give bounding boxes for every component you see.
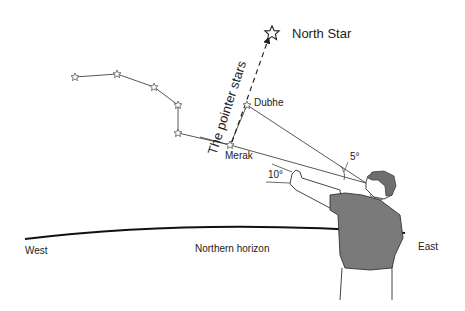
star-icon bbox=[174, 129, 182, 137]
star-icon bbox=[71, 73, 79, 81]
merak-label: Merak bbox=[225, 151, 253, 161]
east-label: East bbox=[418, 242, 438, 252]
stars bbox=[71, 26, 279, 149]
star-icon bbox=[174, 101, 182, 109]
merak-star-icon bbox=[226, 141, 234, 149]
star-icon bbox=[113, 70, 121, 78]
diagram-canvas: North Star The pointer stars Dubhe Merak… bbox=[0, 0, 465, 311]
observer-figure bbox=[290, 170, 403, 300]
west-label: West bbox=[25, 246, 48, 256]
northern-horizon-label: Northern horizon bbox=[195, 244, 269, 254]
north-star-icon bbox=[265, 26, 279, 40]
ten-degree-label: 10° bbox=[268, 170, 283, 180]
dubhe-label: Dubhe bbox=[254, 98, 283, 108]
five-degree-label: 5° bbox=[350, 152, 360, 162]
north-star-label: North Star bbox=[292, 27, 351, 40]
